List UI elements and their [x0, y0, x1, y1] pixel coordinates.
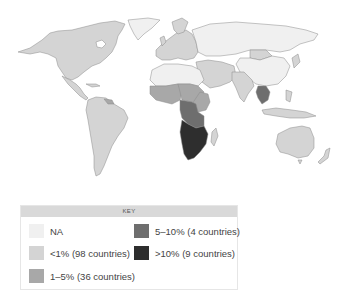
- region-indonesia: [262, 108, 316, 118]
- swatch-5to10: [134, 224, 149, 238]
- key-label-gt10: >10% (9 countries): [155, 248, 235, 259]
- region-philippines: [286, 90, 292, 102]
- key-label-5to10: 5–10% (4 countries): [155, 226, 240, 237]
- region-caribbean: [86, 84, 100, 87]
- region-south-america: [86, 97, 128, 176]
- world-map: [0, 0, 340, 200]
- swatch-lt1: [29, 246, 44, 260]
- region-central-america: [62, 76, 88, 100]
- swatch-1to5: [29, 269, 44, 283]
- key-item-gt10: >10% (9 countries): [134, 246, 235, 260]
- key-title: KEY: [21, 206, 237, 217]
- region-australia: [276, 126, 314, 158]
- region-southeast-asia: [256, 86, 270, 104]
- map-key: KEY NA <1% (98 countries) 1–5% (36 count…: [20, 205, 238, 290]
- region-madagascar: [211, 128, 218, 146]
- region-middle-east: [196, 60, 236, 88]
- region-north-africa: [150, 64, 204, 86]
- swatch-na: [29, 224, 44, 238]
- region-west-africa: [150, 84, 182, 104]
- region-north-america: [18, 21, 125, 80]
- region-tasmania: [298, 160, 302, 164]
- key-label-na: NA: [50, 226, 63, 237]
- key-item-na: NA: [29, 224, 63, 238]
- region-new-zealand: [318, 148, 330, 164]
- key-item-1to5: 1–5% (36 countries): [29, 269, 135, 283]
- swatch-gt10: [134, 246, 149, 260]
- key-item-lt1: <1% (98 countries): [29, 246, 130, 260]
- key-item-5to10: 5–10% (4 countries): [134, 224, 240, 238]
- region-japan: [292, 54, 300, 68]
- key-label-lt1: <1% (98 countries): [50, 248, 130, 259]
- region-greenland: [128, 18, 160, 40]
- key-label-1to5: 1–5% (36 countries): [50, 271, 135, 282]
